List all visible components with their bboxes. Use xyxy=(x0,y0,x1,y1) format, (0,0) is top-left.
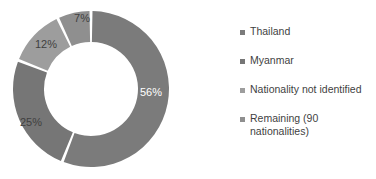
legend-item-label: Nationality not identified xyxy=(250,83,362,96)
legend-item[interactable]: Remaining (90 nationalities) xyxy=(240,112,318,138)
legend-swatch-icon xyxy=(240,30,245,35)
legend-item-label: Remaining (90 nationalities) xyxy=(250,112,318,138)
donut-slice-label: 56% xyxy=(140,86,162,98)
donut-slice-label: 12% xyxy=(35,38,57,50)
donut-slice[interactable] xyxy=(13,62,73,161)
chart-legend: ThailandMyanmarNationality not identifie… xyxy=(240,0,376,179)
donut-slice-label: 25% xyxy=(20,116,42,128)
legend-item[interactable]: Thailand xyxy=(240,25,290,38)
legend-swatch-icon xyxy=(240,88,245,93)
donut-chart-figure: 56%25%12%7% ThailandMyanmarNationality n… xyxy=(0,0,376,179)
donut-chart-svg: 56%25%12%7% xyxy=(0,0,188,179)
legend-item[interactable]: Nationality not identified xyxy=(240,83,362,96)
legend-item-label: Thailand xyxy=(250,25,290,38)
legend-item-label: Myanmar xyxy=(250,54,294,67)
legend-item[interactable]: Myanmar xyxy=(240,54,294,67)
donut-chart-plot-area: 56%25%12%7% xyxy=(0,0,188,179)
legend-swatch-icon xyxy=(240,117,245,122)
donut-slice-label: 7% xyxy=(74,12,90,24)
legend-swatch-icon xyxy=(240,59,245,64)
